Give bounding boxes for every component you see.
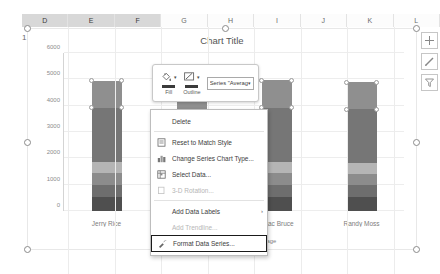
series-select-value: Series "Averag — [210, 80, 248, 86]
series-select-dropdown[interactable]: Series "Averag ▾ — [207, 77, 254, 90]
rotation-icon — [155, 184, 168, 197]
fill-bucket-icon — [160, 71, 173, 84]
column-header-k[interactable]: K — [347, 14, 393, 27]
menu-icon-placeholder — [155, 205, 168, 218]
column-header-e[interactable]: E — [68, 14, 114, 27]
chart-resize-handle[interactable] — [24, 25, 31, 32]
bar-segment[interactable] — [347, 185, 377, 197]
series-point-handle[interactable] — [374, 107, 379, 112]
series-point-handle[interactable] — [89, 78, 94, 83]
column-header-i[interactable]: I — [254, 14, 300, 27]
row-header-1[interactable]: 1 — [22, 33, 26, 42]
bar-column[interactable] — [64, 53, 149, 211]
menu-item-format-data-series[interactable]: Format Data Series... — [151, 235, 267, 252]
series-point-handle[interactable] — [374, 80, 379, 85]
menu-separator — [154, 131, 264, 132]
stacked-bar[interactable] — [92, 81, 122, 211]
chart-resize-handle[interactable] — [24, 139, 31, 146]
menu-item-label: Change Series Chart Type... — [172, 155, 254, 162]
outline-caret-icon[interactable]: ▾ — [197, 75, 200, 80]
series-point-handle[interactable] — [289, 78, 294, 83]
menu-item-label: Delete — [172, 118, 191, 125]
y-axis-tick-label: 5000 — [47, 70, 64, 76]
menu-item-label: Format Data Series... — [173, 240, 235, 247]
menu-item-label: Select Data... — [172, 171, 211, 178]
reset-style-icon — [155, 136, 168, 149]
brush-icon — [424, 56, 435, 67]
menu-item-label: 3-D Rotation... — [172, 187, 214, 194]
bar-segment[interactable] — [92, 108, 122, 163]
chart-resize-handle[interactable] — [413, 25, 420, 32]
format-series-icon — [156, 237, 169, 250]
series-point-handle[interactable] — [259, 78, 264, 83]
chart-filters-button[interactable] — [421, 74, 438, 91]
column-header-g[interactable]: G — [161, 14, 207, 27]
pencil-outline-icon — [183, 71, 196, 84]
bar-segment[interactable] — [347, 163, 377, 174]
menu-item-change-series-chart-type[interactable]: Change Series Chart Type... — [151, 150, 267, 166]
menu-icon-placeholder — [155, 221, 168, 234]
sheet-gridline-vertical — [115, 27, 116, 274]
y-axis-tick-label: 6000 — [47, 44, 64, 50]
chart-resize-handle[interactable] — [24, 246, 31, 253]
chart-styles-button[interactable] — [421, 53, 438, 70]
bar-segment[interactable] — [347, 109, 377, 162]
menu-item-add-data-labels[interactable]: Add Data Labels› — [151, 203, 267, 219]
series-point-handle[interactable] — [344, 80, 349, 85]
mini-toolbar[interactable]: ▾ Fill ▾ Outline Series "Averag ▾ — [152, 64, 259, 102]
sheet-gridline-vertical — [394, 27, 395, 274]
column-header-f[interactable]: F — [115, 14, 161, 27]
series-point-handle[interactable] — [344, 107, 349, 112]
menu-item-3-d-rotation: 3-D Rotation... — [151, 182, 267, 198]
y-axis-tick-label: 1000 — [47, 176, 64, 182]
bar-segment-selected[interactable] — [347, 82, 377, 109]
bar-segment[interactable] — [92, 162, 122, 173]
bar-segment[interactable] — [347, 174, 377, 185]
bar-segment[interactable] — [92, 173, 122, 184]
funnel-icon — [424, 77, 435, 88]
plus-icon — [424, 35, 435, 46]
chevron-down-icon[interactable]: ▾ — [248, 80, 251, 86]
fill-tool[interactable]: ▾ Fill — [157, 71, 180, 95]
series-point-handle[interactable] — [289, 105, 294, 110]
bar-segment-selected[interactable] — [92, 81, 122, 108]
chart-resize-handle[interactable] — [413, 246, 420, 253]
chart-title[interactable]: Chart Title — [28, 35, 416, 46]
sheet-gridline-vertical — [301, 27, 302, 274]
chart-resize-handle[interactable] — [413, 139, 420, 146]
column-header-j[interactable]: J — [301, 14, 347, 27]
menu-item-reset-to-match-style[interactable]: Reset to Match Style — [151, 134, 267, 150]
menu-icon-placeholder — [155, 115, 168, 128]
select-data-icon — [155, 168, 168, 181]
sheet-gridline-vertical — [347, 27, 348, 274]
context-menu[interactable]: DeleteReset to Match StyleChange Series … — [150, 109, 268, 256]
fill-caret-icon[interactable]: ▾ — [174, 75, 177, 80]
chart-elements-button[interactable] — [421, 32, 438, 49]
bar-segment-selected[interactable] — [262, 80, 292, 108]
y-axis-tick-label: 0 — [57, 202, 64, 208]
series-point-handle[interactable] — [119, 105, 124, 110]
submenu-arrow-icon[interactable]: › — [261, 208, 263, 214]
bar-column[interactable] — [319, 53, 404, 211]
menu-separator — [154, 200, 264, 201]
column-header-strip: DEFGHIJKL — [22, 14, 440, 27]
chart-resize-handle[interactable] — [222, 25, 229, 32]
chart-side-buttons[interactable] — [421, 32, 438, 91]
menu-item-label: Reset to Match Style — [172, 139, 232, 146]
menu-item-select-data[interactable]: Select Data... — [151, 166, 267, 182]
bar-segment[interactable] — [347, 197, 377, 211]
outline-color-bar — [185, 85, 198, 88]
bar-segment[interactable] — [92, 197, 122, 211]
chart-type-icon — [155, 152, 168, 165]
fill-color-bar — [162, 85, 175, 88]
bar-segment[interactable] — [92, 185, 122, 198]
column-header-h[interactable]: H — [208, 14, 254, 27]
sheet-gridline-vertical — [68, 27, 69, 274]
y-axis-tick-label: 4000 — [47, 97, 64, 103]
outline-tool[interactable]: ▾ Outline — [180, 71, 203, 95]
outline-label: Outline — [183, 89, 200, 95]
stacked-bar[interactable] — [347, 82, 377, 211]
series-point-handle[interactable] — [119, 78, 124, 83]
excel-chart-screenshot: DEFGHIJKL 1 Chart Title 0100020003000400… — [0, 0, 440, 274]
menu-item-delete[interactable]: Delete — [151, 113, 267, 129]
